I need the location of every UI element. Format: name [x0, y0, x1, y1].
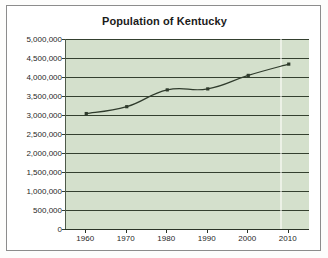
y-axis-labels: 0500,0001,000,0001,500,0002,000,0002,500…: [7, 39, 62, 229]
x-axis-tick-label: 1990: [198, 234, 216, 243]
x-axis-tick-mark: [288, 229, 289, 233]
data-point-marker: [85, 112, 88, 115]
x-axis-tick-label: 2010: [279, 234, 297, 243]
data-point-marker: [206, 87, 209, 90]
series-population-of-kentucky: [66, 39, 309, 229]
y-axis-tick-label: 1,000,000: [10, 187, 62, 196]
y-axis-tick-label: 2,500,000: [10, 130, 62, 139]
x-axis-tick-label: 1960: [76, 234, 94, 243]
data-point-marker: [247, 74, 250, 77]
data-point-marker: [287, 63, 290, 66]
chart-frame: Population of Kentucky 0500,0001,000,000…: [6, 5, 321, 251]
x-axis-line: [65, 229, 309, 230]
y-axis-tick-label: 4,000,000: [10, 73, 62, 82]
y-axis-tick-label: 500,000: [10, 206, 62, 215]
x-axis-tick-mark: [207, 229, 208, 233]
data-point-marker: [125, 105, 128, 108]
x-axis-tick-label: 2000: [238, 234, 256, 243]
y-axis-tick-label: 5,000,000: [10, 35, 62, 44]
x-axis-tick-label: 1980: [157, 234, 175, 243]
data-point-marker: [166, 88, 169, 91]
y-axis-tick-label: 0: [10, 225, 62, 234]
scanned-page: Population of Kentucky 0500,0001,000,000…: [0, 0, 328, 258]
chart-title: Population of Kentucky: [7, 15, 322, 27]
plot-area: [65, 39, 309, 229]
y-axis-tick-label: 3,000,000: [10, 111, 62, 120]
x-axis-tick-mark: [247, 229, 248, 233]
x-axis-tick-mark: [85, 229, 86, 233]
y-axis-tick-label: 1,500,000: [10, 168, 62, 177]
series-line: [86, 64, 289, 113]
x-axis-tick-mark: [126, 229, 127, 233]
x-axis-tick-mark: [166, 229, 167, 233]
y-axis-tick-label: 4,500,000: [10, 54, 62, 63]
y-axis-tick-label: 2,000,000: [10, 149, 62, 158]
x-axis-labels: 196019701980199020002010: [65, 234, 308, 250]
y-axis-tick-label: 3,500,000: [10, 92, 62, 101]
x-axis-tick-label: 1970: [117, 234, 135, 243]
